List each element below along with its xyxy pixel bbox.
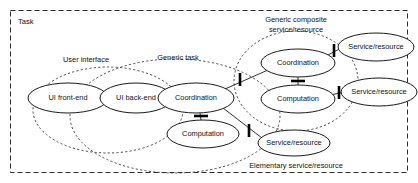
group-label-generic-task: Generic task	[157, 53, 199, 62]
node-computation-main[interactable]: Computation	[167, 120, 239, 148]
group-label-elementary-service-resource: Elementary service/resource	[249, 161, 343, 170]
node-label-ui-back-end: UI back-end	[116, 93, 156, 102]
node-label-coordination-main: Coordination	[175, 93, 217, 102]
node-label-coordination-composite: Coordination	[277, 58, 319, 67]
node-label-computation-main: Computation	[182, 129, 224, 138]
node-service-resource-middle[interactable]: Service/resource	[341, 78, 417, 106]
node-label-service-resource-middle: Service/resource	[351, 87, 406, 96]
architecture-diagram: Task UI front-end	[0, 0, 418, 183]
node-label-computation-composite: Computation	[277, 94, 319, 103]
node-coordination-composite[interactable]: Coordination	[261, 49, 335, 77]
link-coordination-to-generic-composite	[225, 70, 268, 89]
diagram-canvas: Task UI front-end	[0, 0, 418, 183]
node-service-resource-bottom[interactable]: Service/resource	[258, 130, 330, 156]
group-ellipse-generic-task	[70, 59, 280, 173]
node-ui-front-end[interactable]: UI front-end	[28, 83, 108, 113]
group-label-generic-composite-line-1: Generic composite	[265, 15, 327, 24]
group-label-generic-composite-line-2: service/resource	[269, 25, 323, 34]
task-frame-label: Task	[18, 17, 34, 26]
node-service-resource-top[interactable]: Service/resource	[338, 33, 414, 61]
node-label-service-resource-top: Service/resource	[348, 42, 403, 51]
node-coordination-main[interactable]: Coordination	[158, 83, 234, 113]
node-label-ui-front-end: UI front-end	[48, 93, 87, 102]
node-computation-composite[interactable]: Computation	[261, 85, 335, 113]
group-label-user-interface: User interface	[63, 55, 109, 64]
node-label-service-resource-bottom: Service/resource	[266, 138, 321, 147]
